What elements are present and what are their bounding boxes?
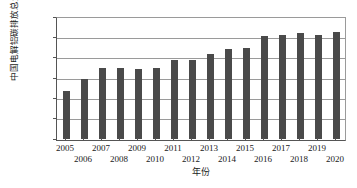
x-axis-tick-labels: 2005200620072008200920102011201220132014…	[56, 142, 346, 168]
bar	[315, 35, 322, 140]
x-axis-tick-label: 2015	[228, 143, 262, 153]
x-axis-tick-label: 2005	[48, 143, 82, 153]
x-axis-tick-label: 2012	[174, 154, 208, 164]
y-axis-title: 中国电解铝碳排放总量/104t	[4, 0, 18, 94]
x-axis-tick-mark	[209, 138, 210, 141]
bar	[279, 35, 286, 139]
x-axis-tick-label: 2007	[84, 143, 118, 153]
x-axis-tick-label: 2011	[156, 143, 190, 153]
y-axis-tick-mark	[53, 78, 56, 79]
bar	[297, 33, 304, 139]
y-axis-tick-mark	[53, 57, 56, 58]
x-axis-tick-label: 2017	[264, 143, 298, 153]
x-axis-tick-label: 2016	[246, 154, 280, 164]
x-axis-tick-label: 2013	[192, 143, 226, 153]
bar	[81, 79, 88, 139]
plot-area	[56, 17, 346, 141]
y-axis-title-text: 中国电解铝碳排放总量/10	[9, 0, 19, 81]
bar	[333, 32, 340, 139]
bar	[261, 36, 268, 139]
x-axis-tick-mark	[335, 138, 336, 141]
bar	[117, 68, 124, 139]
x-axis-tick-label: 2009	[120, 143, 154, 153]
x-axis-tick-mark	[317, 138, 318, 141]
y-axis-tick-mark	[53, 98, 56, 99]
x-axis-tick-mark	[191, 138, 192, 141]
x-axis-tick-mark	[227, 138, 228, 141]
x-axis-tick-mark	[173, 138, 174, 141]
x-axis-tick-mark	[299, 138, 300, 141]
x-axis-title: 年份	[56, 167, 346, 178]
x-axis-tick-label: 2008	[102, 154, 136, 164]
x-axis-tick-label: 2018	[282, 154, 316, 164]
y-axis-tick-mark	[53, 17, 56, 18]
bar-series	[58, 19, 344, 139]
bar	[207, 54, 214, 139]
x-axis-tick-label: 2019	[300, 143, 334, 153]
x-axis-tick-label: 2010	[138, 154, 172, 164]
y-axis-tick-mark	[53, 139, 56, 140]
x-axis-tick-mark	[245, 138, 246, 141]
bar	[171, 60, 178, 139]
x-axis-tick-mark	[65, 138, 66, 141]
bar	[99, 68, 106, 139]
bar	[63, 91, 70, 139]
x-axis-tick-mark	[119, 138, 120, 141]
x-axis-tick-mark	[263, 138, 264, 141]
x-axis-tick-mark	[281, 138, 282, 141]
y-axis-tick-mark	[53, 118, 56, 119]
bar	[189, 60, 196, 140]
x-axis-tick-label: 2020	[318, 154, 352, 164]
x-axis-tick-label: 2006	[66, 154, 100, 164]
bar	[243, 48, 250, 139]
x-axis-tick-mark	[155, 138, 156, 141]
x-axis-tick-mark	[137, 138, 138, 141]
bar	[135, 69, 142, 139]
x-axis-tick-mark	[101, 138, 102, 141]
x-axis-tick-mark	[83, 138, 84, 141]
bar	[153, 68, 160, 139]
y-axis-tick-mark	[53, 37, 56, 38]
chart-figure: 中国电解铝碳排放总量/104t 020040060080010001200 20…	[0, 0, 357, 188]
x-axis-tick-label: 2014	[210, 154, 244, 164]
bar	[225, 49, 232, 139]
